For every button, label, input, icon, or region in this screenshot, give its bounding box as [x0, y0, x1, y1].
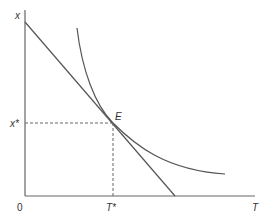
origin-label: 0: [17, 202, 23, 213]
x-star-label: x*: [9, 118, 20, 129]
indifference-curve: [77, 28, 225, 174]
y-axis-label: x: [14, 10, 21, 21]
tangency-diagram: x T 0 E x* T*: [0, 0, 270, 217]
budget-line: [25, 22, 175, 196]
tangency-label: E: [115, 111, 122, 122]
x-axis-label: T: [252, 202, 259, 213]
t-star-label: T*: [106, 202, 117, 213]
